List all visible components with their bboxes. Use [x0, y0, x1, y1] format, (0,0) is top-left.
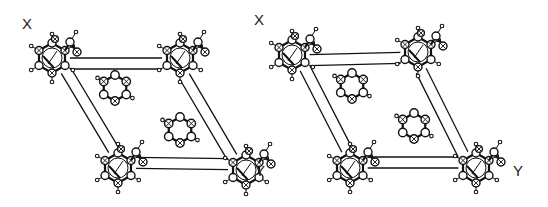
central-ring-left-1 [96, 71, 135, 105]
corner-molecule-left-4 [223, 142, 275, 196]
panel-right [269, 24, 505, 194]
central-ring-right-1 [333, 69, 372, 103]
stereo-crystal-packing-figure: X Y X Y [0, 0, 548, 207]
corner-molecule-right-2 [395, 24, 447, 78]
panel-left [29, 30, 275, 196]
unit-cell-left [61, 58, 237, 170]
unit-cell-right [300, 52, 468, 168]
corner-molecule-left-2 [157, 30, 209, 84]
packing-drawing [0, 0, 548, 207]
corner-molecule-right-4 [453, 140, 505, 194]
corner-molecule-right-3 [327, 140, 379, 194]
corner-molecule-left-1 [29, 30, 81, 84]
central-ring-left-2 [161, 113, 200, 147]
left-axis-label-x: X [22, 16, 32, 31]
left-axis-label-y: Y [255, 163, 265, 178]
right-axis-label-y: Y [513, 163, 523, 178]
right-axis-label-x: X [254, 12, 264, 27]
corner-molecule-left-3 [95, 140, 147, 194]
central-ring-right-2 [395, 109, 434, 143]
